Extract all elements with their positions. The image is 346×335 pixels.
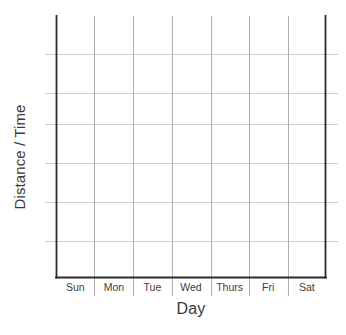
x-tick-label: Sat	[287, 279, 326, 295]
x-tick-label: Tue	[133, 279, 172, 295]
x-tick-label: Sun	[56, 279, 95, 295]
x-tick-label: Thurs	[210, 279, 249, 295]
x-tick-label: Wed	[172, 279, 211, 295]
x-tick-labels: Sun Mon Tue Wed Thurs Fri Sat	[56, 279, 326, 295]
axis-spines	[56, 16, 326, 278]
x-tick-label: Mon	[95, 279, 134, 295]
x-tick-label: Fri	[249, 279, 288, 295]
x-axis-title: Day	[56, 300, 326, 318]
vertical-gridlines	[95, 16, 289, 296]
horizontal-gridlines	[45, 55, 338, 242]
chart-container: Distance / Time Sun Mo	[0, 0, 346, 335]
